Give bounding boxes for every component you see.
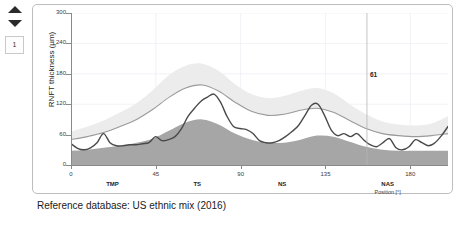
x-axis-line (71, 165, 448, 166)
page-number-box[interactable]: 1 (5, 36, 24, 54)
chart-plot-area (71, 13, 448, 165)
y-axis-tick-label: 0 (26, 161, 66, 167)
y-axis-line (71, 13, 72, 166)
x-axis-tick (241, 165, 242, 169)
x-axis-tick-label: 180 (395, 171, 425, 177)
triangle-down-icon[interactable] (8, 20, 22, 27)
rnfl-thickness-chart: RNFT thickness (µm) 060120180240300 0459… (33, 5, 454, 195)
sector-label: NS (262, 181, 302, 187)
x-axis-tick-label: 0 (56, 171, 86, 177)
y-axis-tick-label: 60 (26, 131, 66, 137)
x-axis-tick (156, 165, 157, 169)
x-axis-tick (410, 165, 411, 169)
sector-label: TS (177, 181, 217, 187)
sector-label: NAS (368, 181, 408, 187)
x-axis-tick-label: 45 (141, 171, 171, 177)
x-axis-title: Position [°] (358, 189, 418, 195)
reference-database-caption: Reference database: US ethnic mix (2016) (37, 200, 226, 211)
x-axis-tick-label: 135 (310, 171, 340, 177)
sector-label: TMP (92, 181, 132, 187)
x-axis-tick (325, 165, 326, 169)
y-axis-tick (66, 135, 71, 136)
y-axis-tick (66, 104, 71, 105)
chart-panel: RNFT thickness (µm) 060120180240300 0459… (32, 4, 453, 194)
y-axis-tick (66, 13, 71, 14)
y-axis-tick-label: 240 (26, 39, 66, 45)
x-axis-tick-label: 90 (226, 171, 256, 177)
y-axis-tick-label: 300 (26, 9, 66, 15)
y-axis-tick-label: 120 (26, 100, 66, 106)
y-axis-tick (66, 43, 71, 44)
screenshot-root: 1 RNFT thickness (µm) 060120180240300 04… (0, 0, 457, 228)
x-axis-tick (71, 165, 72, 169)
y-axis-tick (66, 74, 71, 75)
y-axis-tick-label: 180 (26, 70, 66, 76)
marker-value-label: 61 (370, 71, 377, 78)
triangle-up-icon[interactable] (8, 6, 22, 13)
